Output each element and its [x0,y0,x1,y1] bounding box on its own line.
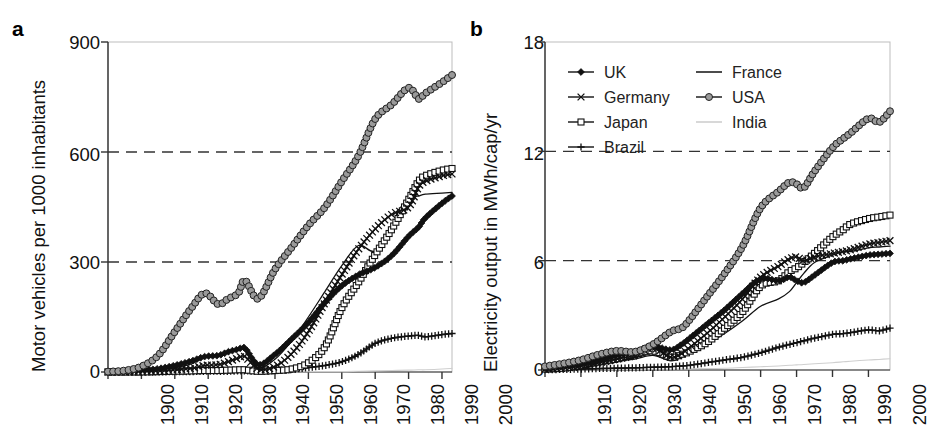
legend-label: France [732,64,782,81]
legend-label: Germany [604,89,670,106]
legend-label: India [732,114,767,131]
series-line [545,215,890,369]
marker-plus [415,332,422,339]
marker-plus [786,341,793,348]
marker-square [449,166,455,172]
marker-plus [793,339,800,346]
marker-plus [790,340,797,347]
series-line [108,174,452,372]
marker-plus [772,344,779,351]
marker-plus [378,337,385,344]
marker-plus [818,333,825,340]
marker-x [337,274,344,281]
marker-plus [577,143,584,150]
marker-square [578,119,584,125]
marker-x [301,334,308,341]
marker-plus [751,351,758,358]
legend-entry-france[interactable]: France [696,64,782,81]
marker-x [299,338,306,345]
marker-plus [329,360,336,367]
marker-plus [755,350,762,357]
marker-circle [449,72,456,79]
marker-plus [811,334,818,341]
marker-plus [815,334,822,341]
marker-plus [737,354,744,361]
marker-plus [783,342,790,349]
marker-x [341,267,348,274]
legend-entry-japan[interactable]: Japan [568,114,648,131]
marker-plus [339,358,346,365]
marker-plus [822,332,829,339]
marker-plus [883,326,890,333]
marker-plus [876,327,883,334]
marker-plus [388,335,395,342]
marker-plus [332,360,339,367]
marker-plus [769,345,776,352]
series-japan [105,166,455,376]
marker-plus [776,343,783,350]
marker-plus [879,327,886,334]
marker-plus [808,335,815,342]
marker-x [778,261,785,268]
legend-entry-uk[interactable]: UK [568,64,627,81]
marker-plus [762,348,769,355]
legend-entry-india[interactable]: India [696,114,767,131]
marker-plus [741,353,748,360]
marker-x [304,330,311,337]
panel-b-plot: UKGermanyJapanBrazilFranceUSAIndia [460,0,910,447]
legend: UKGermanyJapanBrazilFranceUSAIndia [560,56,826,162]
series-germany [542,237,894,372]
legend-box [560,56,826,162]
series-line [108,75,452,372]
marker-plus [336,359,343,366]
series-germany [105,171,456,376]
marker-plus [744,352,751,359]
marker-diamond [578,69,585,76]
marker-plus [384,336,391,343]
marker-circle [887,108,894,115]
marker-circle [706,94,713,101]
marker-plus [758,349,765,356]
series-japan [542,212,893,372]
panel-a-plot [0,0,460,447]
marker-plus [381,336,388,343]
marker-x [350,252,357,259]
marker-x [346,260,353,267]
marker-plus [448,330,455,337]
marker-plus [801,337,808,344]
legend-entry-brazil[interactable]: Brazil [568,139,644,156]
series-line [545,253,890,368]
panel-b: b Electricity output in MWh/cap/yr 18 12… [460,0,910,447]
marker-plus [797,338,804,345]
series-line [545,246,890,369]
marker-square [887,212,893,218]
legend-label: USA [732,89,765,106]
legend-entry-germany[interactable]: Germany [568,89,670,106]
legend-label: Japan [604,114,648,131]
series-uk [105,193,456,376]
marker-plus [804,336,811,343]
marker-plus [765,347,772,354]
series-line [108,169,452,373]
marker-x [343,263,350,270]
legend-label: UK [604,64,627,81]
series-line [108,196,452,372]
panel-a: a Motor vehicles per 1000 inhabitants 90… [0,0,460,447]
marker-x [353,249,360,256]
marker-plus [886,324,893,331]
legend-label: Brazil [604,139,644,156]
series-france [545,246,890,369]
marker-x [339,271,346,278]
legend-entry-usa[interactable]: USA [696,89,765,106]
series-usa [105,72,456,376]
marker-x [385,214,392,221]
marker-plus [779,342,786,349]
panel-b-xtick-2000: 2000 [909,384,931,425]
marker-plus [748,352,755,359]
series-line [545,111,890,366]
